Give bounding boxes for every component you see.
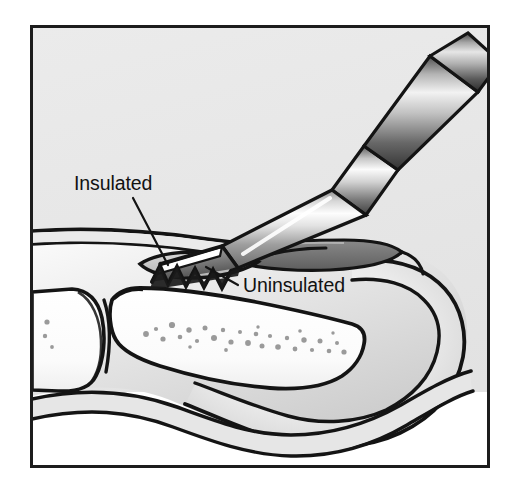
medical-illustration: Insulated Uninsulated <box>0 0 520 495</box>
illustration-canvas: Insulated Uninsulated <box>32 27 500 466</box>
label-uninsulated: Uninsulated <box>243 274 345 296</box>
figure-container: Insulated Uninsulated <box>0 0 520 495</box>
middle-phalanx <box>32 289 104 391</box>
label-insulated: Insulated <box>74 172 152 194</box>
